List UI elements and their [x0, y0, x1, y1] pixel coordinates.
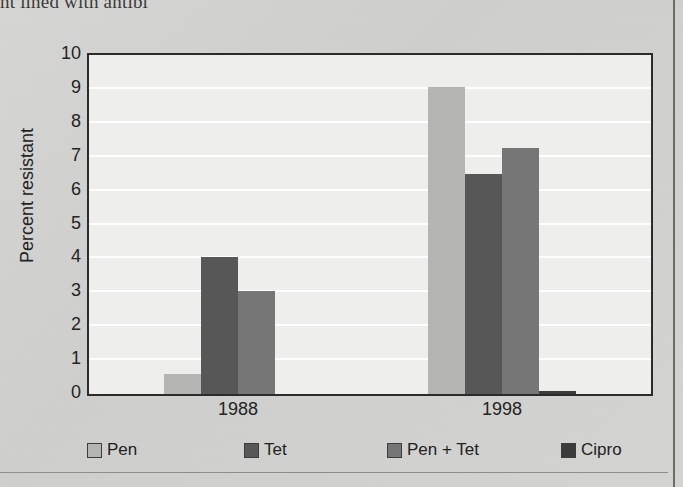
y-tick-2: 2 — [36, 315, 81, 333]
legend-swatch-icon — [561, 443, 576, 458]
legend-swatch-icon — [387, 443, 402, 458]
legend-label: Tet — [264, 440, 287, 460]
bar-pen-1998 — [428, 87, 465, 394]
legend-label: Pen — [107, 440, 137, 460]
legend-item-cipro[interactable]: Cipro — [561, 440, 622, 460]
y-tick-7: 7 — [36, 146, 81, 164]
x-tick-1988: 1988 — [198, 399, 278, 420]
bar-chart: Percent resistant 012345678910 19881998 … — [0, 0, 683, 487]
legend-swatch-icon — [87, 443, 102, 458]
y-tick-3: 3 — [36, 281, 81, 299]
y-tick-9: 9 — [36, 78, 81, 96]
bar-tet-1998 — [465, 174, 502, 394]
legend-swatch-icon — [244, 443, 259, 458]
y-tick-1: 1 — [36, 349, 81, 367]
legend-label: Pen + Tet — [407, 440, 479, 460]
bar-cipro-1998 — [539, 391, 576, 394]
chart-legend: PenTetPen + TetCipro — [87, 440, 653, 466]
y-tick-0: 0 — [36, 383, 81, 401]
legend-item-tet[interactable]: Tet — [244, 440, 287, 460]
x-axis-tick-labels: 19881998 — [87, 399, 653, 425]
y-tick-10: 10 — [36, 44, 81, 62]
y-tick-6: 6 — [36, 180, 81, 198]
y-tick-5: 5 — [36, 214, 81, 232]
plot-area — [87, 53, 653, 396]
x-tick-1998: 1998 — [462, 399, 542, 420]
y-axis-tick-labels: 012345678910 — [36, 44, 81, 396]
legend-label: Cipro — [581, 440, 622, 460]
bar-tet-1988 — [201, 257, 238, 394]
legend-item-pen[interactable]: Pen — [87, 440, 137, 460]
legend-item-pen-tet[interactable]: Pen + Tet — [387, 440, 479, 460]
bar-series-container — [89, 55, 651, 394]
bar-pen-tet-1998 — [502, 148, 539, 394]
bar-pen-1988 — [164, 374, 201, 394]
bar-pen-tet-1988 — [238, 291, 275, 394]
y-axis-label: Percent resistant — [17, 106, 38, 286]
y-tick-8: 8 — [36, 112, 81, 130]
y-tick-4: 4 — [36, 247, 81, 265]
